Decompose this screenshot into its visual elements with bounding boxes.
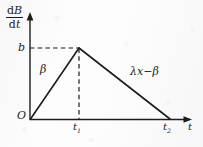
plot-canvas [0, 0, 203, 147]
y-axis-title-numerator: dB [6, 5, 23, 17]
y-axis-arrowhead [27, 12, 34, 21]
figure-container: dB dt b O t1 t2 t β λx−β [0, 0, 203, 147]
differential-d-numerator: d [7, 4, 14, 17]
origin-label: O [17, 110, 26, 121]
falling-segment [79, 48, 170, 119]
y-axis [27, 12, 34, 120]
y-axis-title-denominator: dt [6, 19, 23, 31]
x-axis-label: t [188, 122, 192, 132]
x-tick-label-t1-subscript: 1 [77, 127, 81, 134]
x-tick-label-t2: t2 [163, 122, 171, 134]
x-tick-label-t1: t1 [73, 122, 81, 134]
rising-slope-annotation: β [40, 64, 46, 75]
variable-B: B [14, 4, 22, 17]
y-axis-title: dB dt [6, 5, 23, 30]
differential-d-denominator: d [9, 18, 16, 31]
falling-slope-annotation: λx−β [130, 66, 159, 77]
rising-segment [31, 48, 80, 119]
x-tick-label-t2-subscript: 2 [167, 127, 171, 134]
variable-t: t [16, 18, 20, 31]
y-tick-label-b: b [18, 42, 25, 53]
